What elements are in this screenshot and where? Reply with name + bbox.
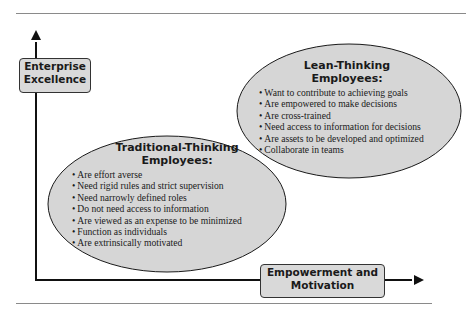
list-item: Do not need access to information (72, 203, 272, 214)
y-axis-label-line: Enterprise (20, 60, 90, 73)
x-axis-arrowhead-icon (414, 275, 424, 285)
list-item: Need narrowly defined roles (72, 192, 272, 203)
y-axis-label-box: Enterprise Excellence (19, 58, 91, 93)
traditional-title-line: Employees: (82, 154, 272, 167)
list-item: Want to contribute to achieving goals (259, 87, 437, 98)
list-item: Need rigid rules and strict supervision (72, 180, 272, 191)
list-item: Are assets to be developed and optimized (259, 133, 437, 144)
lean-thinking-title: Lean-Thinking Employees: (257, 59, 437, 85)
list-item: Are viewed as an expense to be minimized (72, 215, 272, 226)
list-item: Are extrinsically motivated (72, 237, 272, 248)
traditional-title-line: Traditional-Thinking (82, 141, 272, 154)
list-item: Need access to information for decisions (259, 121, 437, 132)
y-axis-label-line: Excellence (20, 73, 90, 86)
lean-title-line: Employees: (257, 72, 437, 85)
traditional-thinking-title: Traditional-Thinking Employees: (72, 141, 272, 167)
lean-thinking-list: Want to contribute to achieving goals Ar… (259, 87, 437, 155)
lean-thinking-content: Lean-Thinking Employees: Want to contrib… (257, 59, 437, 155)
traditional-thinking-list: Are effort averse Need rigid rules and s… (72, 169, 272, 249)
list-item: Are empowered to make decisions (259, 98, 437, 109)
y-axis-arrowhead-icon (31, 30, 41, 40)
list-item: Collaborate in teams (259, 144, 437, 155)
x-axis-label-line: Motivation (261, 279, 384, 292)
lean-title-line: Lean-Thinking (257, 59, 437, 72)
list-item: Function as individuals (72, 226, 272, 237)
x-axis-label-box: Empowerment and Motivation (260, 264, 385, 298)
list-item: Are effort averse (72, 169, 272, 180)
x-axis-label-line: Empowerment and (261, 266, 384, 279)
list-item: Are cross-trained (259, 110, 437, 121)
traditional-thinking-content: Traditional-Thinking Employees: Are effo… (72, 141, 272, 249)
